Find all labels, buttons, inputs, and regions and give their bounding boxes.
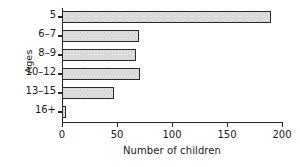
bar <box>62 49 136 61</box>
bar-chart: Ages 56–78–910–1213–1516+ 050100150200 N… <box>0 0 300 167</box>
bar <box>62 30 139 42</box>
y-tick-label: 5 <box>50 9 56 20</box>
x-tick-label: 100 <box>162 129 181 140</box>
bar <box>62 68 140 80</box>
x-tick-label: 0 <box>59 129 65 140</box>
y-tick-label: 13–15 <box>26 85 56 96</box>
x-tick-mark <box>227 122 228 127</box>
x-tick-label: 50 <box>111 129 124 140</box>
x-tick-mark <box>117 122 118 127</box>
y-tick-label: 10–12 <box>26 66 56 77</box>
bar <box>62 11 271 23</box>
bar <box>62 106 66 118</box>
y-tick-label: 6–7 <box>38 28 56 39</box>
x-tick-mark <box>172 122 173 127</box>
x-tick-label: 150 <box>217 129 236 140</box>
x-tick-mark <box>282 122 283 127</box>
x-tick-mark <box>62 122 63 127</box>
plot-area: 56–78–910–1213–1516+ 050100150200 <box>62 8 282 122</box>
y-axis-line <box>62 8 63 122</box>
bar <box>62 87 114 99</box>
y-tick-label: 16+ <box>35 104 56 115</box>
x-tick-label: 200 <box>272 129 291 140</box>
y-tick-label: 8–9 <box>38 47 56 58</box>
x-axis-title: Number of children <box>62 145 282 156</box>
